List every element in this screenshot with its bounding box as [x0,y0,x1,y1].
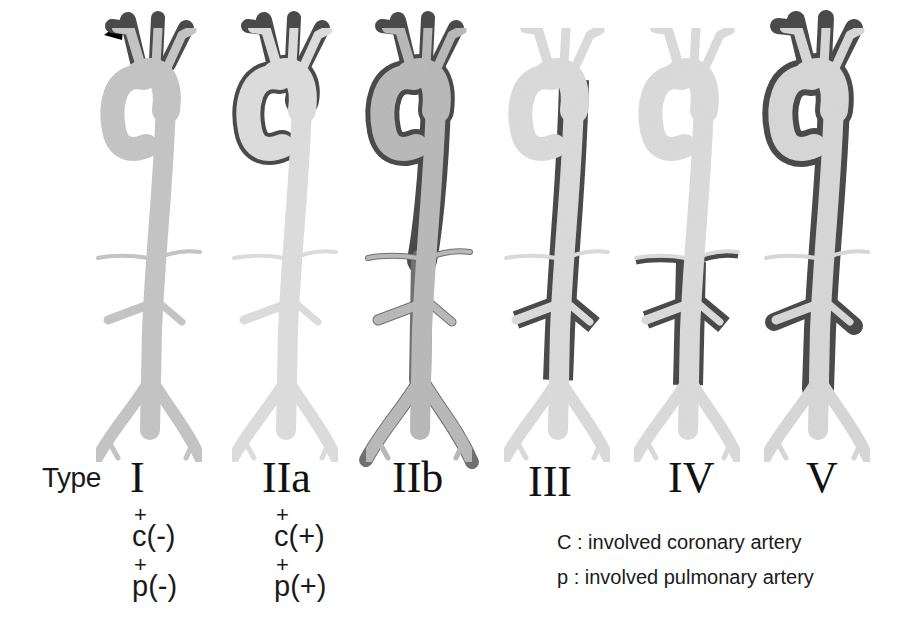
type-v-label: V [806,456,838,500]
type-iia-pulmonary: p(+) [274,572,326,601]
type-i-coronary: c(-) [132,522,175,551]
type-iv-label: IV [668,456,714,500]
legend-coronary: C : involved coronary artery [557,531,802,554]
aorta-type-iv [634,28,740,462]
type-i-label: I [130,456,145,500]
aorta-type-iia [232,18,338,462]
legend-pulmonary: p : involved pulmonary artery [557,566,814,589]
aorta-type-iii [504,28,610,462]
type-label: Type [42,462,101,494]
type-iii-label: III [528,460,572,504]
aorta-type-i [96,18,202,462]
type-iia-label: IIa [262,456,311,500]
aorta-type-v [764,18,870,462]
type-iia-coronary: c(+) [274,522,325,551]
type-i-pulmonary: p(-) [132,572,177,601]
aorta-type-iib [366,18,472,462]
type-iib-label: IIb [392,456,443,500]
